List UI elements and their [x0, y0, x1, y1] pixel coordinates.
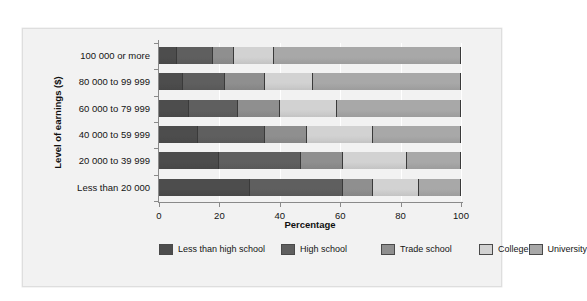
gridline [340, 43, 341, 201]
y-tick [154, 69, 159, 70]
y-axis-title: Level of earnings ($) [50, 43, 64, 201]
bar-row[interactable] [159, 100, 461, 117]
y-tick [154, 175, 159, 176]
x-tick [280, 202, 281, 207]
bar-segment[interactable] [343, 152, 406, 169]
bar-segment[interactable] [159, 73, 183, 90]
legend-swatch [479, 244, 493, 255]
legend-label: Trade school [400, 244, 452, 254]
bar-segment[interactable] [265, 126, 307, 143]
y-tick [154, 122, 159, 123]
y-tick [154, 43, 159, 44]
x-axis-title: Percentage [159, 219, 461, 230]
legend-label: University [548, 244, 587, 254]
legend-swatch [159, 244, 173, 255]
legend-item[interactable]: College [479, 242, 529, 256]
plot-area: 100 000 or more80 000 to 99 99960 000 to… [159, 43, 461, 201]
gridline [280, 43, 281, 201]
gridline [401, 43, 402, 201]
x-tick [461, 202, 462, 207]
bar-segment[interactable] [234, 47, 273, 64]
x-tick [340, 202, 341, 207]
y-tick [154, 148, 159, 149]
category-label: 80 000 to 99 999 [79, 73, 150, 90]
bar-row[interactable] [159, 179, 461, 196]
bar-segment[interactable] [219, 152, 301, 169]
category-label: Less than 20 000 [77, 179, 150, 196]
gridline [461, 43, 462, 201]
x-tick [401, 202, 402, 207]
bar-segment[interactable] [407, 152, 461, 169]
bar-row[interactable] [159, 126, 461, 143]
bar-row[interactable] [159, 47, 461, 64]
x-tick [219, 202, 220, 207]
bar-segment[interactable] [238, 100, 280, 117]
legend-item[interactable]: Trade school [381, 242, 479, 256]
bar-segment[interactable] [159, 47, 177, 64]
bar-segment[interactable] [250, 179, 344, 196]
bar-segment[interactable] [313, 73, 461, 90]
bar-segment[interactable] [280, 100, 337, 117]
legend-item[interactable]: High school [281, 242, 381, 256]
gridline [219, 43, 220, 201]
legend-swatch [281, 244, 295, 255]
legend-item[interactable]: University [529, 242, 587, 256]
legend-swatch [381, 244, 395, 255]
legend-label: Less than high school [178, 244, 265, 254]
y-axis-title-label: Level of earnings ($) [52, 76, 63, 168]
bar-segment[interactable] [183, 73, 225, 90]
bar-segment[interactable] [159, 126, 198, 143]
bar-segment[interactable] [177, 47, 213, 64]
bar-row[interactable] [159, 152, 461, 169]
legend-item[interactable]: Less than high school [159, 242, 281, 256]
chart-figure: Level of earnings ($) 100 000 or more80 … [22, 28, 502, 287]
y-tick [154, 96, 159, 97]
bar-segment[interactable] [159, 152, 219, 169]
bar-segment[interactable] [343, 179, 373, 196]
category-label: 100 000 or more [80, 47, 150, 64]
bar-segment[interactable] [265, 73, 313, 90]
category-label: 40 000 to 59 999 [79, 126, 150, 143]
bar-segment[interactable] [198, 126, 264, 143]
x-tick [159, 202, 160, 207]
bar-segment[interactable] [159, 100, 189, 117]
chart-legend: Less than high schoolHigh schoolTrade sc… [159, 242, 479, 256]
category-label: 60 000 to 79 999 [79, 100, 150, 117]
category-label: 20 000 to 39 999 [79, 152, 150, 169]
bar-segment[interactable] [337, 100, 461, 117]
legend-label: College [498, 244, 529, 254]
bar-segment[interactable] [307, 126, 373, 143]
bar-segment[interactable] [301, 152, 343, 169]
bar-segment[interactable] [274, 47, 461, 64]
legend-label: High school [300, 244, 347, 254]
bar-segment[interactable] [225, 73, 264, 90]
bar-segment[interactable] [159, 179, 250, 196]
legend-swatch [529, 244, 543, 255]
bar-segment[interactable] [213, 47, 234, 64]
bar-segment[interactable] [373, 179, 418, 196]
bar-segment[interactable] [373, 126, 461, 143]
bar-row[interactable] [159, 73, 461, 90]
bar-segment[interactable] [419, 179, 461, 196]
x-axis-line [158, 202, 463, 203]
bar-segment[interactable] [189, 100, 237, 117]
